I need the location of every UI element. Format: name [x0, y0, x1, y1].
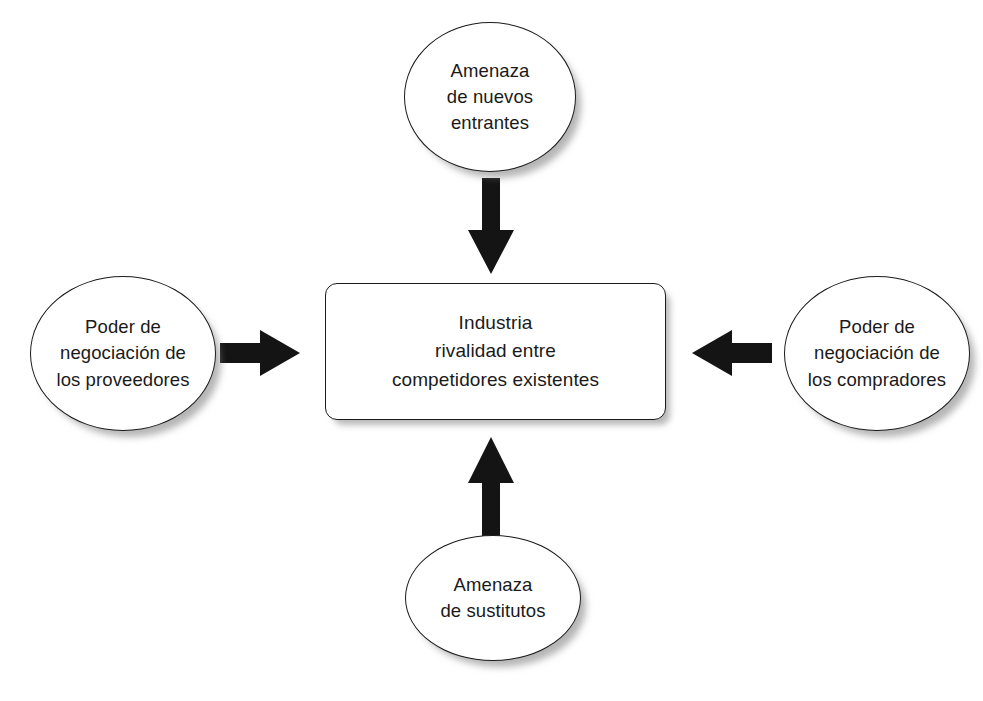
text-line: Amenaza — [440, 572, 545, 598]
text-line: Poder de — [808, 314, 946, 340]
text-line: negociación de — [56, 340, 189, 366]
text-line: los compradores — [808, 367, 946, 393]
text-line: Poder de — [56, 314, 189, 340]
porter-five-forces-diagram: Amenaza de nuevos entrantes Poder de neg… — [0, 0, 983, 701]
force-node-buyer-power: Poder de negociación de los compradores — [784, 276, 970, 431]
center-node-industry-label: Industria rivalidad entre competidores e… — [384, 309, 607, 395]
text-line: de sustitutos — [440, 598, 545, 624]
text-line: Amenaza — [447, 58, 533, 84]
force-node-buyer-power-label: Poder de negociación de los compradores — [800, 314, 954, 393]
arrow-left-icon — [692, 330, 772, 376]
text-line: los proveedores — [56, 367, 189, 393]
arrow-right-icon — [220, 330, 300, 376]
force-node-supplier-power-label: Poder de negociación de los proveedores — [48, 314, 197, 393]
text-line: rivalidad entre — [392, 337, 599, 366]
text-line: competidores existentes — [392, 366, 599, 395]
force-node-new-entrants: Amenaza de nuevos entrantes — [404, 22, 576, 172]
text-line: negociación de — [808, 340, 946, 366]
arrow-down-icon — [468, 178, 514, 274]
force-node-substitutes-label: Amenaza de sustitutos — [432, 572, 553, 625]
force-node-supplier-power: Poder de negociación de los proveedores — [30, 276, 216, 431]
force-node-substitutes: Amenaza de sustitutos — [405, 535, 581, 661]
arrow-up-icon — [468, 437, 514, 537]
text-line: de nuevos — [447, 84, 533, 110]
force-node-new-entrants-label: Amenaza de nuevos entrantes — [439, 58, 541, 137]
text-line: entrantes — [447, 110, 533, 136]
text-line: Industria — [392, 309, 599, 338]
center-node-industry: Industria rivalidad entre competidores e… — [325, 283, 666, 420]
